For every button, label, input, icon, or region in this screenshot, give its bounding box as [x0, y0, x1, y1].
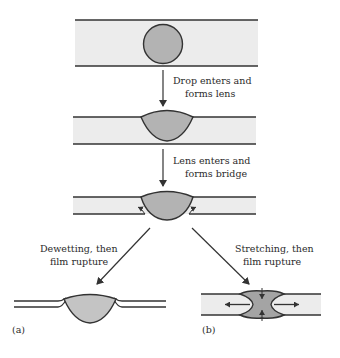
- label-stretching-line1: Stretching, then: [235, 243, 314, 254]
- panel-label-b: (b): [202, 324, 216, 335]
- label-dewetting-line2: film rupture: [50, 256, 109, 267]
- oil-drop: [144, 25, 183, 64]
- panel-label-a: (a): [12, 324, 25, 335]
- label-dewetting-line1: Dewetting, then: [40, 243, 118, 254]
- arrow-bridge-to-b: [192, 228, 249, 284]
- diagram-canvas: Drop enters and forms lens Lens enters a…: [0, 0, 340, 358]
- panel-b-stretching: [201, 288, 321, 321]
- panel-a-dewetting: [14, 295, 166, 324]
- film-top-right: [114, 298, 166, 301]
- stage-drop-in-film: [75, 20, 258, 66]
- label-stretching-line2: film rupture: [243, 256, 302, 267]
- film-top-left: [14, 298, 66, 301]
- label-lens-enters-line2: forms bridge: [185, 168, 248, 179]
- label-drop-enters-line1: Drop enters and: [173, 75, 251, 86]
- oil-lens-dewetted: [64, 295, 116, 324]
- stage-lens: [73, 111, 256, 145]
- label-lens-enters-line1: Lens enters and: [173, 155, 250, 166]
- label-drop-enters-line2: forms lens: [185, 88, 235, 99]
- stage-bridge: [73, 192, 256, 221]
- oil-bridge: [141, 192, 193, 221]
